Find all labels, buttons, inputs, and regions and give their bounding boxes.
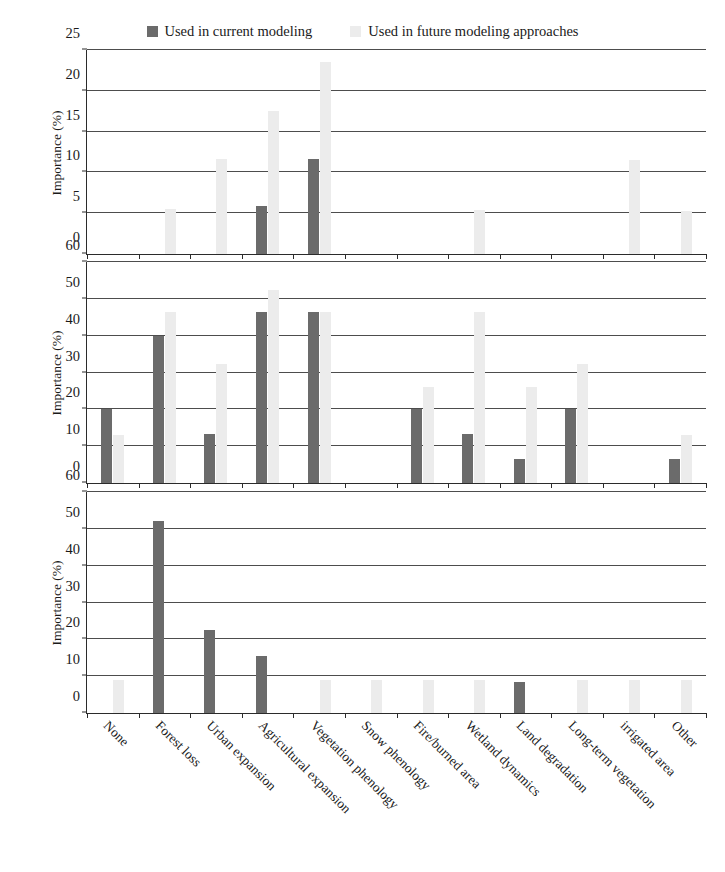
bar-category-group (603, 262, 655, 483)
y-axis-tick-label: 60 (66, 237, 81, 254)
bar-group-panel-2 (87, 262, 706, 483)
bar-current-modeling (565, 409, 576, 483)
y-axis-tick-label: 20 (66, 614, 81, 631)
y-axis-tick-mark (82, 171, 87, 172)
x-axis-label-cell: Fire/burned area (396, 716, 448, 866)
x-axis-tick-mark (293, 483, 294, 488)
bar-category-group (87, 492, 139, 713)
y-axis-tick-mark (82, 527, 87, 528)
x-axis-tick-mark (87, 254, 88, 259)
bar-current-modeling (308, 159, 319, 254)
bar-future-modeling (268, 290, 279, 483)
bar-category-group (654, 492, 706, 713)
bar-current-modeling (256, 312, 267, 483)
x-axis-category-label: Other (669, 720, 702, 753)
y-axis-tick-label: 0 (73, 688, 80, 705)
bar-future-modeling (629, 680, 640, 713)
bar-category-group (139, 50, 191, 254)
y-axis-tick-label: 60 (66, 467, 81, 484)
y-axis-tick-label: 20 (66, 384, 81, 401)
bar-category-group (190, 262, 242, 483)
square-swatch-light-icon (350, 26, 361, 37)
bar-future-modeling (474, 680, 485, 713)
bar-future-modeling (423, 680, 434, 713)
bar-category-group (603, 50, 655, 254)
x-axis-label-cell: Forest loss (138, 716, 190, 866)
y-axis-tick-mark (82, 675, 87, 676)
bar-future-modeling (681, 211, 692, 254)
bar-current-modeling (669, 459, 680, 483)
chart-legend: Used in current modeling Used in future … (0, 18, 725, 44)
bar-category-group (190, 492, 242, 713)
bar-category-group (242, 492, 294, 713)
x-axis-label-cell: Snow phenology (344, 716, 396, 866)
chart-panel-2: Importance (%) 0102030405060 (0, 262, 725, 484)
y-axis-label-panel-1: Importance (%) (49, 110, 65, 195)
chart-panel-1: Importance (%) 0510152025 (0, 50, 725, 255)
x-axis-tick-mark (654, 254, 655, 259)
x-axis-category-label: None (101, 720, 133, 752)
bar-category-group (448, 492, 500, 713)
bar-current-modeling (153, 521, 164, 713)
y-axis-tick-mark (82, 601, 87, 602)
x-axis-tick-mark (242, 254, 243, 259)
x-axis-label-cell: Long-term vegetation (551, 716, 603, 866)
bar-future-modeling (320, 312, 331, 483)
x-axis-tick-mark (500, 483, 501, 488)
bar-category-group (87, 262, 139, 483)
bar-category-group (345, 50, 397, 254)
bar-category-group (603, 492, 655, 713)
bar-category-group (448, 50, 500, 254)
x-axis-tick-mark (139, 254, 140, 259)
x-axis-tick-mark (551, 483, 552, 488)
x-axis-label-cell: Wetland dynamics (448, 716, 500, 866)
legend-entry-current: Used in current modeling (147, 23, 313, 40)
bar-future-modeling (320, 62, 331, 254)
x-axis-tick-mark (190, 483, 191, 488)
bar-current-modeling (153, 336, 164, 483)
y-axis-tick-mark (82, 371, 87, 372)
y-axis-tick-mark (82, 261, 87, 262)
x-axis-label-cell: Land degradation (499, 716, 551, 866)
bar-future-modeling (577, 680, 588, 713)
bar-future-modeling (681, 680, 692, 713)
bar-category-group (551, 262, 603, 483)
y-axis-tick-mark (82, 89, 87, 90)
x-axis-tick-mark (654, 483, 655, 488)
x-axis-tick-mark (551, 254, 552, 259)
x-axis-tick-mark (448, 254, 449, 259)
bar-category-group (345, 262, 397, 483)
x-axis-tick-mark (242, 483, 243, 488)
legend-label-future: Used in future modeling approaches (368, 23, 578, 40)
bar-category-group (396, 262, 448, 483)
x-axis-tick-mark (397, 483, 398, 488)
bar-future-modeling (165, 312, 176, 483)
bar-future-modeling (681, 435, 692, 483)
bar-future-modeling (577, 364, 588, 483)
bar-category-group (396, 492, 448, 713)
x-axis-tick-mark (345, 483, 346, 488)
y-axis-tick-mark (82, 49, 87, 50)
x-axis-label-cell: Urban expansion (189, 716, 241, 866)
y-axis-tick-label: 10 (66, 147, 81, 164)
y-axis-tick-mark (82, 445, 87, 446)
bar-category-group (654, 262, 706, 483)
bar-current-modeling (256, 656, 267, 713)
x-axis-tick-mark (397, 254, 398, 259)
bar-future-modeling (113, 680, 124, 713)
y-axis-tick-label: 30 (66, 347, 81, 364)
bar-category-group (500, 492, 552, 713)
bar-category-group (293, 50, 345, 254)
y-axis-tick-label: 5 (73, 188, 80, 205)
bar-current-modeling (411, 409, 422, 483)
plot-area-panel-2: 0102030405060 (86, 262, 706, 484)
bar-future-modeling (474, 312, 485, 483)
bar-current-modeling (101, 409, 112, 483)
bar-current-modeling (308, 312, 319, 483)
bar-future-modeling (165, 209, 176, 254)
x-axis-label-cell: Agricultural expansion (241, 716, 293, 866)
y-axis-tick-mark (82, 408, 87, 409)
x-axis-tick-mark (190, 254, 191, 259)
y-axis-tick-label: 50 (66, 273, 81, 290)
y-axis-tick-label: 40 (66, 310, 81, 327)
